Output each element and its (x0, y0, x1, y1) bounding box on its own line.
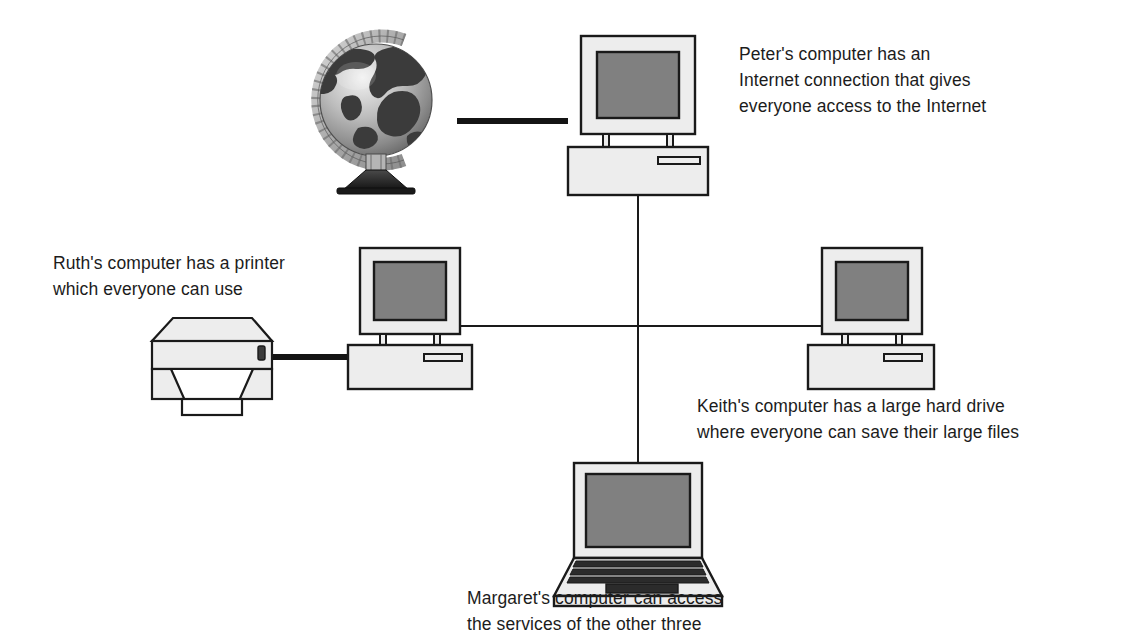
peters-computer (568, 36, 708, 195)
laptop-screen (586, 474, 690, 547)
drive-slot (658, 157, 700, 164)
printer-body (152, 341, 272, 369)
globe-pivot-knob (366, 154, 386, 171)
laptop-key-rows (567, 561, 709, 583)
caption-margarets-computer: Margaret's computer can access the servi… (467, 585, 817, 637)
system-unit (348, 345, 472, 389)
monitor-screen (836, 262, 908, 320)
ruths-computer (348, 248, 472, 389)
monitor-screen (597, 52, 679, 118)
system-unit (568, 147, 708, 195)
internet-globe (314, 36, 432, 194)
caption-peters-computer: Peter's computer has an Internet connect… (739, 41, 1069, 119)
system-unit (808, 345, 934, 389)
printer-tray-lip (182, 399, 242, 415)
drive-slot (424, 354, 462, 361)
drive-slot (884, 354, 922, 361)
shared-printer (152, 318, 272, 415)
monitor-screen (374, 262, 446, 320)
globe-base (343, 170, 409, 190)
network-diagram-canvas: Peter's computer has an Internet connect… (0, 0, 1132, 643)
printer-top (152, 318, 272, 341)
caption-ruths-computer: Ruth's computer has a printer which ever… (53, 250, 353, 302)
printer-indicator (258, 346, 265, 360)
keiths-computer (808, 248, 934, 389)
caption-keiths-computer: Keith's computer has a large hard drive … (697, 393, 1117, 445)
printer-paper-tray (171, 369, 253, 403)
